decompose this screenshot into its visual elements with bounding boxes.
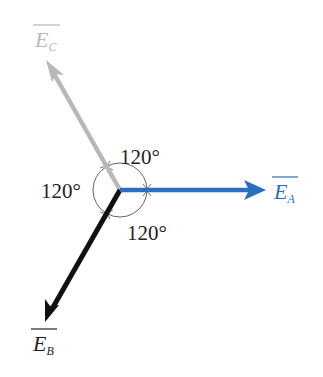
svg-text:EB: EB bbox=[32, 331, 54, 358]
svg-text:EC: EC bbox=[34, 27, 57, 54]
angle-arc-left bbox=[93, 167, 107, 214]
label-ea-subscript: A bbox=[286, 192, 295, 206]
label-eb: EB bbox=[31, 329, 57, 358]
label-ec-subscript: C bbox=[48, 40, 57, 54]
label-ec-symbol: E bbox=[34, 27, 49, 52]
angle-label-top: 120° bbox=[120, 145, 160, 169]
vector-ec bbox=[46, 60, 120, 190]
phasor-diagram: 120° 120° 120° EC EA EB bbox=[0, 0, 323, 377]
label-ea: EA bbox=[272, 177, 298, 206]
angle-label-bottom: 120° bbox=[127, 221, 167, 245]
vector-ec-shaft bbox=[53, 72, 120, 190]
label-ec: EC bbox=[33, 25, 60, 54]
vector-eb bbox=[45, 190, 120, 322]
vector-eb-shaft bbox=[52, 190, 120, 309]
label-eb-symbol: E bbox=[32, 331, 47, 356]
label-ea-symbol: E bbox=[273, 179, 288, 204]
angle-label-left: 120° bbox=[41, 179, 81, 203]
vector-ea bbox=[120, 180, 266, 200]
svg-text:EA: EA bbox=[273, 179, 295, 206]
label-eb-subscript: B bbox=[46, 344, 54, 358]
